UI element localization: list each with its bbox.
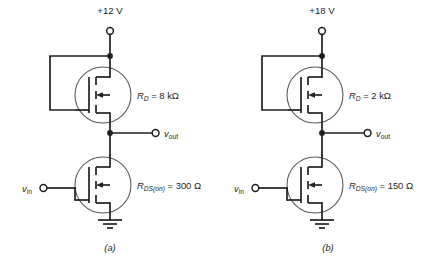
circuit-b: +18 V RD = 2 kΩ	[234, 5, 413, 253]
supply-terminal-b[interactable]	[319, 28, 326, 35]
ground-symbol-a	[98, 220, 122, 228]
lower-mosfet-body-arrow-a	[96, 182, 103, 188]
on-resistance-label-b: RDS(on) = 150 Ω	[349, 180, 413, 193]
upper-mosfet-a	[75, 56, 131, 133]
input-label-a: vin	[22, 183, 32, 195]
on-resistance-label-a: RDS(on) = 300 Ω	[137, 180, 201, 193]
output-label-a: vout	[164, 128, 178, 140]
output-label-b: vout	[376, 128, 390, 140]
supply-terminal-a[interactable]	[107, 28, 114, 35]
ground-symbol-b	[310, 220, 334, 228]
circuit-a: +12 V	[22, 5, 201, 253]
upper-mosfet-body-arrow-b	[308, 92, 315, 98]
load-resistance-label-b: RD = 2 kΩ	[349, 90, 391, 102]
caption-b: (b)	[322, 242, 333, 253]
lower-mosfet-body-arrow-b	[308, 182, 315, 188]
load-resistance-label-a: RD = 8 kΩ	[137, 90, 179, 102]
caption-a: (a)	[104, 242, 115, 253]
lower-mosfet-a	[75, 155, 131, 220]
lower-mosfet-b	[287, 155, 343, 220]
gate-drain-feedback-b	[262, 56, 322, 110]
supply-label-a: +12 V	[97, 5, 123, 16]
gate-drain-feedback-a	[50, 56, 110, 110]
mosfet-inverter-figure: +12 V	[0, 0, 428, 261]
supply-label-b: +18 V	[309, 5, 335, 16]
output-terminal-b[interactable]	[364, 130, 371, 137]
upper-mosfet-b	[287, 56, 343, 133]
output-terminal-a[interactable]	[152, 130, 159, 137]
upper-mosfet-body-arrow-a	[96, 92, 103, 98]
input-terminal-a[interactable]	[40, 185, 47, 192]
input-label-b: vin	[234, 183, 244, 195]
input-terminal-b[interactable]	[252, 185, 259, 192]
